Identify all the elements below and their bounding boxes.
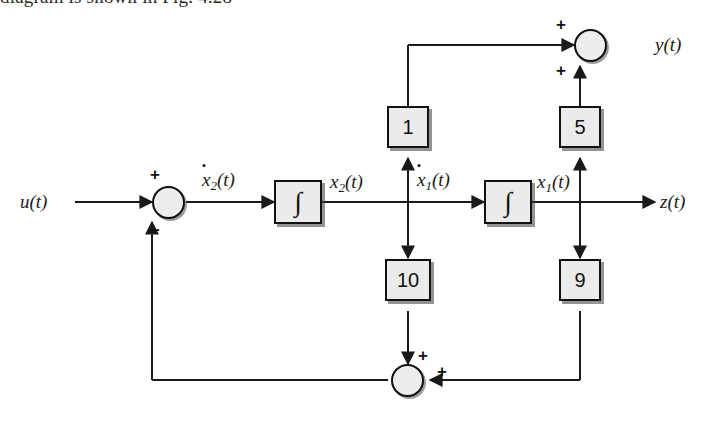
output-sum-plus-sign-left: + — [556, 16, 566, 33]
signal-label-x2-dot: x 2(t) — [202, 170, 235, 192]
x1-dot-variable: x — [417, 170, 425, 189]
output-summing-junction — [574, 29, 607, 62]
gain-value: 9 — [574, 269, 585, 292]
integrator-2-block: ∫ — [484, 180, 532, 224]
x2-paren: (t) — [345, 171, 363, 192]
gain-10-block: 10 — [385, 259, 431, 301]
feedback-summing-junction — [391, 364, 424, 397]
feedback-sum-plus-sign-right: + — [437, 363, 447, 380]
gain-value: 10 — [397, 269, 419, 292]
signal-label-x1: x1(t) — [537, 172, 570, 194]
block-diagram-page: diagram is shown in Fig. 4.28 — [0, 0, 708, 422]
gain-value: 1 — [402, 116, 413, 139]
derivative-dot-icon — [203, 164, 206, 167]
gain-value: 5 — [574, 116, 585, 139]
x1-dot-base: x — [417, 169, 425, 190]
x2-dot-paren: (t) — [217, 169, 235, 190]
input-summing-junction — [152, 186, 185, 219]
gain-5-block: 5 — [559, 106, 601, 148]
signal-label-x2: x2(t) — [330, 172, 363, 194]
x1-dot-paren: (t) — [432, 169, 450, 190]
x2-dot-base: x — [202, 169, 210, 190]
x1-paren: (t) — [552, 171, 570, 192]
signal-label-output-z: z(t) — [660, 192, 685, 211]
input-sum-plus-sign: + — [150, 166, 160, 183]
block-diagram-canvas — [0, 0, 708, 422]
derivative-dot-icon — [418, 164, 421, 167]
input-sum-minus-sign: − — [150, 222, 160, 239]
signal-label-input-u: u(t) — [20, 192, 47, 211]
integrator-1-block: ∫ — [274, 180, 322, 224]
integral-symbol: ∫ — [504, 187, 511, 218]
gain-1-block: 1 — [387, 106, 429, 148]
feedback-sum-plus-sign-top: + — [418, 347, 428, 364]
gain-9-block: 9 — [559, 259, 601, 301]
x2-dot-variable: x — [202, 170, 210, 189]
signal-label-output-y: y(t) — [655, 35, 681, 54]
signal-label-x1-dot: x 1(t) — [417, 170, 450, 192]
integral-symbol: ∫ — [294, 187, 301, 218]
output-sum-plus-sign-bottom: + — [556, 62, 566, 79]
